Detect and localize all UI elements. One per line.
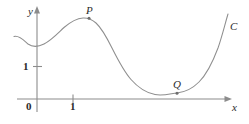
- figure-canvas: [0, 0, 249, 124]
- x-axis-arrowhead: [225, 96, 233, 102]
- point-label-q: Q: [173, 79, 181, 90]
- y-axis-arrowhead: [34, 6, 40, 14]
- origin-label: 0: [26, 101, 32, 112]
- x-axis-label: x: [232, 102, 237, 113]
- point-label-p: P: [86, 5, 93, 16]
- y-axis-label: y: [28, 6, 33, 17]
- y-axis-tick-label-1: 1: [23, 61, 29, 72]
- curve-c-path: [14, 14, 228, 95]
- point-marker-q: [176, 92, 179, 95]
- curve-label-c: C: [230, 21, 237, 32]
- point-marker-p: [88, 17, 91, 20]
- curve-figure: y x P Q C 0 1 1: [0, 0, 249, 124]
- x-axis-tick-label-1: 1: [70, 101, 76, 112]
